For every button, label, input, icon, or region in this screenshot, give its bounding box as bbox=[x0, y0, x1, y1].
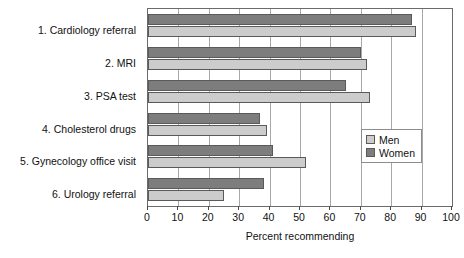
axis-tick-label: 20 bbox=[193, 211, 223, 223]
bar-women bbox=[148, 145, 273, 156]
bar-group bbox=[148, 14, 452, 42]
axis-tick-label: 80 bbox=[375, 211, 405, 223]
axis-tick-label: 30 bbox=[223, 211, 253, 223]
category-axis: 1. Cardiology referral2. MRI3. PSA test4… bbox=[0, 8, 142, 205]
legend-label: Women bbox=[379, 147, 415, 159]
axis-tick bbox=[421, 206, 422, 210]
legend-swatch-men bbox=[366, 135, 375, 144]
bar-women bbox=[148, 47, 361, 58]
bar-men bbox=[148, 125, 267, 136]
chart-legend: MenWomen bbox=[361, 129, 422, 163]
legend-item: Men bbox=[366, 133, 415, 146]
bar-women bbox=[148, 80, 346, 91]
bar-men bbox=[148, 26, 416, 37]
category-label: 1. Cardiology referral bbox=[0, 24, 136, 36]
legend-label: Men bbox=[379, 134, 399, 146]
legend-swatch-women bbox=[366, 148, 375, 157]
value-axis: 0102030405060708090100 bbox=[147, 206, 453, 232]
category-label: 2. MRI bbox=[0, 57, 136, 69]
axis-tick-label: 10 bbox=[162, 211, 192, 223]
bar-group bbox=[148, 47, 452, 75]
bar-men bbox=[148, 59, 367, 70]
x-axis-title: Percent recommending bbox=[147, 230, 453, 242]
axis-tick bbox=[147, 206, 148, 210]
bar-group bbox=[148, 80, 452, 108]
axis-tick-label: 100 bbox=[436, 211, 464, 223]
axis-tick bbox=[329, 206, 330, 210]
bar-women bbox=[148, 178, 264, 189]
axis-tick-label: 90 bbox=[406, 211, 436, 223]
category-label: 4. Cholesterol drugs bbox=[0, 123, 136, 135]
category-label: 6. Urology referral bbox=[0, 188, 136, 200]
legend-item: Women bbox=[366, 146, 415, 159]
bar-men bbox=[148, 92, 370, 103]
axis-tick bbox=[208, 206, 209, 210]
axis-tick bbox=[299, 206, 300, 210]
axis-tick bbox=[360, 206, 361, 210]
axis-tick-label: 0 bbox=[132, 211, 162, 223]
axis-tick-label: 40 bbox=[254, 211, 284, 223]
category-label: 3. PSA test bbox=[0, 90, 136, 102]
bar-women bbox=[148, 14, 412, 25]
axis-tick bbox=[269, 206, 270, 210]
axis-tick bbox=[238, 206, 239, 210]
axis-tick-label: 70 bbox=[345, 211, 375, 223]
bar-men bbox=[148, 190, 224, 201]
category-label: 5. Gynecology office visit bbox=[0, 155, 136, 167]
bar-chart: 1. Cardiology referral2. MRI3. PSA test4… bbox=[0, 0, 464, 258]
bar-men bbox=[148, 157, 306, 168]
bar-group bbox=[148, 178, 452, 206]
axis-tick bbox=[451, 206, 452, 210]
axis-tick-label: 50 bbox=[284, 211, 314, 223]
plot-area bbox=[147, 8, 453, 207]
axis-tick bbox=[177, 206, 178, 210]
bar-women bbox=[148, 113, 260, 124]
bars-layer bbox=[148, 9, 452, 206]
axis-tick-label: 60 bbox=[314, 211, 344, 223]
axis-tick bbox=[390, 206, 391, 210]
